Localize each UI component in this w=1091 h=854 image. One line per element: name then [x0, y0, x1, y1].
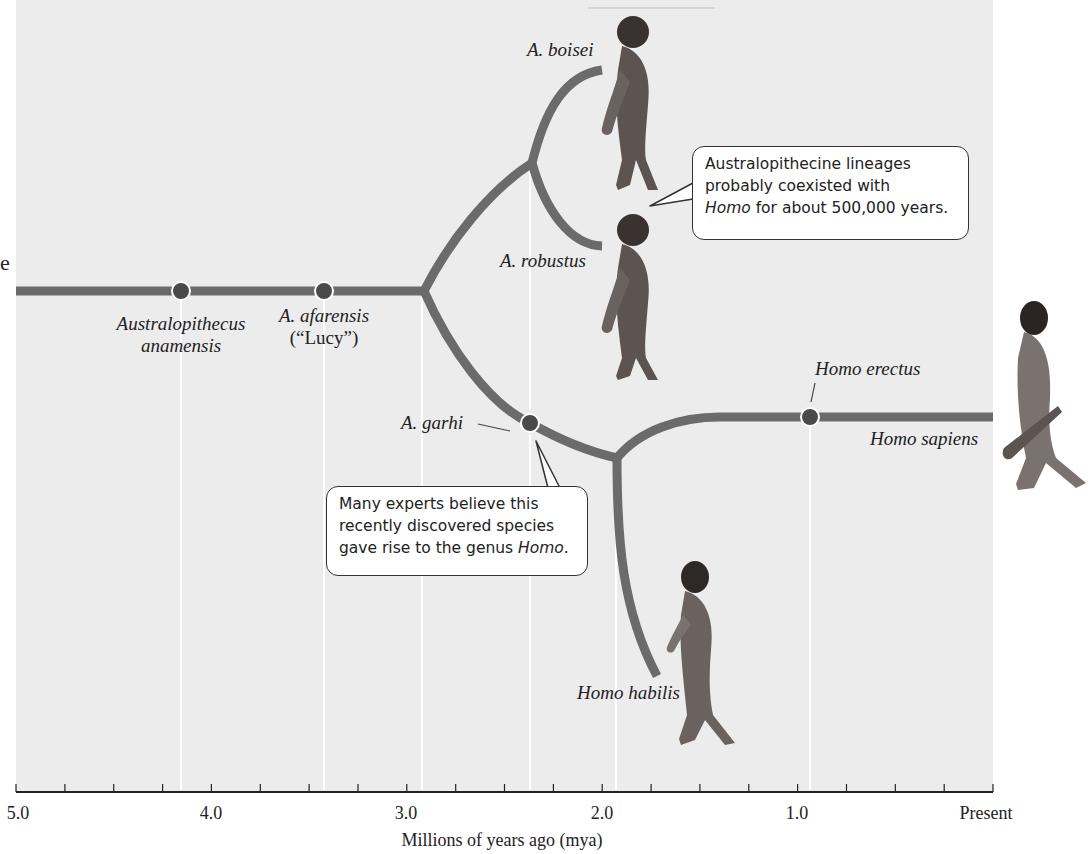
callout-coexist-homo: Homo	[705, 199, 751, 217]
x-axis-title: Millions of years ago (mya)	[402, 830, 603, 851]
species-label-garhi: A. garhi	[401, 412, 463, 434]
tick-label-1: 1.0	[786, 803, 809, 824]
callout-garhi-origin: Many experts believe this recently disco…	[326, 486, 588, 576]
node-garhi	[521, 414, 539, 432]
phylogeny-diagram	[0, 0, 1091, 854]
callout-garhi-post: .	[564, 539, 569, 557]
time-axis	[16, 784, 993, 792]
species-label-sapiens: Homo sapiens	[870, 428, 978, 450]
callout-coexist-line3: Homo for about 500,000 years.	[705, 197, 956, 219]
callout-coexist-line2: probably coexisted with	[705, 175, 956, 197]
callout-coexist-line1: Australopithecine lineages	[705, 153, 956, 175]
hominin-figure-icon	[602, 16, 658, 190]
tick-label-3: 3.0	[395, 803, 418, 824]
label-anamensis-line1: Australopithecus	[117, 313, 246, 335]
node-afarensis	[315, 282, 333, 300]
tick-label-5: 5.0	[7, 803, 30, 824]
species-label-boisei: A. boisei	[527, 39, 594, 61]
hominin-figure-icon	[1003, 301, 1086, 490]
erectus-leader-line	[811, 383, 815, 402]
tick-label-present: Present	[960, 803, 1013, 824]
species-label-afarensis: A. afarensis (“Lucy”)	[279, 305, 369, 349]
callout-garhi-pre: gave rise to the genus	[339, 539, 518, 557]
callout-coexist-rest: for about 500,000 years.	[751, 199, 948, 217]
tick-label-2: 2.0	[591, 803, 614, 824]
tick-label-4: 4.0	[200, 803, 223, 824]
species-label-habilis: Homo habilis	[577, 682, 680, 704]
boisei-branch	[532, 70, 602, 163]
species-label-erectus: Homo erectus	[815, 358, 920, 380]
callout-garhi-line1: Many experts believe this	[339, 493, 575, 515]
callout-garhi-line3: gave rise to the genus Homo.	[339, 537, 575, 559]
hominin-figure-icon	[667, 561, 735, 745]
garhi-leader-line	[478, 424, 510, 431]
label-lucy: (“Lucy”)	[279, 327, 369, 349]
node-anamensis	[172, 282, 190, 300]
callout-garhi-homo: Homo	[518, 539, 564, 557]
robustus-branch	[532, 163, 602, 246]
callout-garhi-line2: recently discovered species	[339, 515, 575, 537]
species-label-anamensis: Australopithecus anamensis	[117, 313, 246, 357]
species-nodes	[172, 282, 819, 432]
garhi-callout-pointer	[536, 441, 560, 488]
guide-lines	[181, 170, 810, 790]
species-label-robustus: A. robustus	[500, 250, 586, 272]
habilis-branch	[617, 458, 657, 676]
node-erectus	[801, 408, 819, 426]
axis-ticks	[16, 784, 993, 792]
label-anamensis-line2: anamensis	[117, 335, 246, 357]
label-afarensis-line1: A. afarensis	[279, 305, 369, 327]
callout-coexistence: Australopithecine lineages probably coex…	[692, 146, 969, 240]
hominin-figure-icon	[602, 214, 658, 380]
